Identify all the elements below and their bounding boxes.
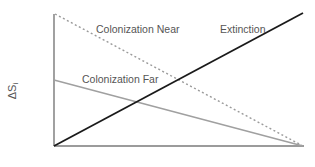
svg-text:ΔSi: ΔSi	[6, 83, 20, 100]
colonization-far-label: Colonization Far	[82, 73, 159, 85]
diagram-canvas: Colonization Near Extinction Colonizatio…	[0, 0, 315, 167]
colonization-far-line	[54, 80, 303, 146]
y-axis-label-subscript: i	[11, 83, 20, 85]
extinction-label: Extinction	[220, 23, 266, 35]
colonization-near-label: Colonization Near	[96, 23, 180, 35]
y-axis-label-main: ΔS	[6, 85, 18, 100]
y-axis-label: ΔSi	[6, 83, 20, 100]
